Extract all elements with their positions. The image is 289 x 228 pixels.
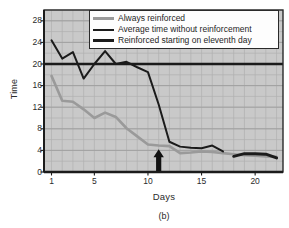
x-tick-label: 1: [40, 176, 64, 186]
y-tick-label: 0: [16, 168, 42, 177]
y-tick-label: 24: [16, 38, 42, 47]
legend-swatch-icon: [93, 17, 114, 20]
legend-item-always-reinforced: Always reinforced: [93, 13, 275, 24]
chart-legend: Always reinforced Average time without r…: [89, 10, 279, 49]
x-axis-title: Days: [44, 191, 284, 202]
y-tick-label: 20: [16, 60, 42, 69]
legend-swatch-icon: [93, 29, 114, 31]
x-tick-label: 10: [136, 176, 160, 186]
x-tick-label: 5: [82, 176, 106, 186]
x-tick-label: 20: [243, 176, 267, 186]
y-axis-title: Time: [9, 59, 19, 119]
figure-caption: (b): [44, 211, 284, 221]
y-tick-label: 28: [16, 16, 42, 25]
x-tick-label: 15: [190, 176, 214, 186]
legend-item-average-time: Average time without reinforcement: [93, 24, 275, 35]
legend-label: Average time without reinforcement: [118, 25, 252, 34]
y-tick-label: 4: [16, 146, 42, 155]
y-tick-label: 16: [16, 81, 42, 90]
legend-item-reinforced-eleventh-day: Reinforced starting on eleventh day: [93, 35, 275, 46]
y-tick-label: 8: [16, 124, 42, 133]
legend-label: Reinforced starting on eleventh day: [118, 36, 252, 45]
figure-panel: 0481216202428 15101520 Time Days (b) Alw…: [0, 0, 289, 228]
legend-label: Always reinforced: [118, 14, 185, 23]
y-tick-label: 12: [16, 103, 42, 112]
legend-swatch-icon: [93, 39, 114, 43]
